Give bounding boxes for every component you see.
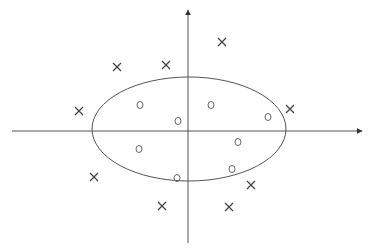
cross-marker-icon (75, 107, 83, 115)
circle-marker-icon (137, 102, 143, 109)
circle-marker-icon (136, 146, 142, 153)
cross-marker-icon (113, 63, 121, 71)
circle-marker-icon (208, 102, 214, 109)
cross-marker-icon (225, 203, 233, 211)
cross-marker-icon (158, 202, 166, 210)
circle-marker-icon (175, 118, 181, 125)
circle-marker-icon (265, 114, 271, 121)
cross-marker-icon (162, 61, 170, 69)
cross-marker-icon (286, 105, 294, 113)
cross-marker-icon (218, 38, 226, 46)
cross-marker-icon (90, 173, 98, 181)
cross-markers-group (75, 38, 294, 211)
circle-marker-icon (235, 139, 241, 146)
cross-marker-icon (247, 181, 255, 189)
circle-marker-icon (229, 166, 235, 173)
classification-diagram (0, 0, 368, 252)
decision-boundary-ellipse (92, 77, 286, 181)
